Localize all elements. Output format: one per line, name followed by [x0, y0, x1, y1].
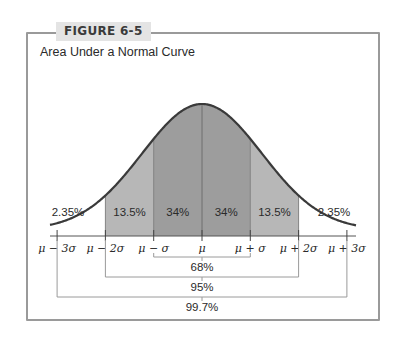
bracket-label: 68% — [190, 261, 213, 273]
region-label: 2.35% — [318, 206, 351, 218]
region-label: 13.5% — [113, 206, 146, 218]
x-axis-tick-labels: μ − 3σμ − 2σμ − σμμ + σμ + 2σμ + 3σ — [38, 242, 366, 255]
normal-curve-chart: 2.35%13.5%34%34%13.5%2.35% μ − 3σμ − 2σμ… — [0, 0, 396, 343]
bracket-label: 99.7% — [186, 301, 219, 313]
region-label: 34% — [166, 206, 189, 218]
bracket-68: 68% — [154, 253, 251, 273]
bracket-label: 95% — [190, 281, 213, 293]
region-label: 2.35% — [52, 206, 85, 218]
region-label: 13.5% — [258, 206, 291, 218]
tick-label: μ — [198, 242, 205, 255]
region-label: 34% — [215, 206, 238, 218]
